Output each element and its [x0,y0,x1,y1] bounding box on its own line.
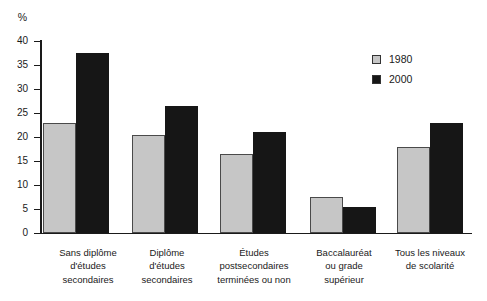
legend: 19802000 [372,53,412,93]
bar-chart: % 0510152025303540Sans diplôme d'études … [0,0,487,301]
y-tick-label-5: 5 [0,203,28,215]
legend-label-1980: 1980 [389,53,412,65]
y-tick-label-30: 30 [0,83,28,95]
y-tick-5 [34,209,40,210]
bar-1980-group2 [132,135,165,233]
y-tick-10 [34,185,40,186]
bar-2000-group1 [76,53,109,233]
bar-2000-group4 [343,207,376,233]
y-tick-20 [34,137,40,138]
legend-swatch-2000 [372,75,381,84]
legend-item-1980: 1980 [372,53,412,65]
bar-1980-group3 [220,154,253,233]
y-tick-label-15: 15 [0,155,28,167]
bar-2000-group2 [165,106,198,233]
y-tick-15 [34,161,40,162]
y-tick-25 [34,113,40,114]
bar-1980-group5 [397,147,430,233]
bar-2000-group5 [430,123,463,233]
bar-1980-group1 [43,123,76,233]
legend-label-2000: 2000 [389,73,412,85]
y-axis-unit-label: % [0,11,27,23]
y-tick-label-20: 20 [0,131,28,143]
plot-area: % 0510152025303540Sans diplôme d'études … [0,0,487,301]
y-tick-0 [34,233,40,234]
y-tick-label-25: 25 [0,107,28,119]
x-category-label-5: Tous les niveaux de scolarité [375,246,485,273]
y-tick-label-35: 35 [0,59,28,71]
bar-1980-group4 [310,197,343,233]
y-tick-label-10: 10 [0,179,28,191]
y-tick-35 [34,65,40,66]
legend-swatch-1980 [372,55,381,64]
legend-item-2000: 2000 [372,73,412,85]
bar-2000-group3 [253,132,286,233]
y-axis [40,40,42,233]
y-tick-label-0: 0 [0,227,28,239]
y-tick-30 [34,89,40,90]
y-tick-40 [34,41,40,42]
y-tick-label-40: 40 [0,35,28,47]
